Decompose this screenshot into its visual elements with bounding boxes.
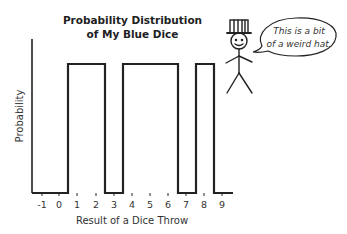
chart-canvas: -1 0 1 2 3 4 5 6 7 8 9 Result of a Dice …	[0, 0, 347, 234]
tick-label: 3	[111, 199, 117, 210]
head	[231, 33, 247, 49]
speech-text-line-2: of a weird hat.	[266, 39, 331, 49]
speech-bubble: This is a bit of a weird hat.	[253, 18, 336, 56]
smile	[235, 44, 243, 46]
right-leg	[239, 73, 252, 93]
stick-figure	[226, 20, 252, 93]
eye	[235, 39, 236, 40]
tick-label: 2	[93, 199, 99, 210]
left-arm	[226, 56, 239, 63]
tick-label: 4	[129, 199, 135, 210]
tick-label: 1	[74, 199, 80, 210]
y-axis-label: Probability	[14, 89, 25, 142]
tick-label: -1	[37, 199, 46, 210]
right-arm	[239, 56, 252, 62]
tick-label: 8	[201, 199, 207, 210]
tick-label: 6	[165, 199, 171, 210]
x-axis-label: Result of a Dice Throw	[76, 215, 188, 226]
distribution-outline	[32, 64, 233, 193]
eye	[241, 39, 242, 40]
left-leg	[227, 73, 239, 93]
x-tick-labels: -1 0 1 2 3 4 5 6 7 8 9	[37, 199, 225, 210]
tick-label: 5	[147, 199, 153, 210]
tick-label: 9	[219, 199, 225, 210]
speech-text-line-1: This is a bit	[273, 26, 325, 36]
tick-label: 7	[183, 199, 189, 210]
tick-label: 0	[56, 199, 62, 210]
hat-icon	[227, 20, 251, 33]
